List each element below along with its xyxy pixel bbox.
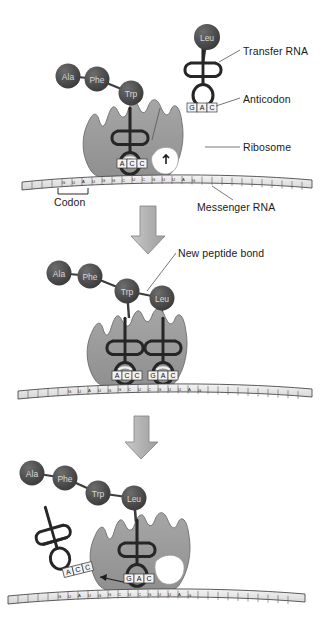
svg-text:G: G	[188, 593, 191, 598]
svg-text:G: G	[198, 388, 201, 393]
svg-text:A: A	[88, 388, 91, 393]
svg-text:C: C	[142, 177, 145, 182]
amino-acid-label: Phe	[82, 272, 97, 282]
svg-text:G: G	[108, 592, 111, 597]
svg-text:A: A	[78, 593, 81, 598]
svg-text:U: U	[98, 388, 101, 393]
amino-acid-label: Trp	[92, 489, 105, 499]
svg-text:G: G	[112, 178, 115, 183]
amino-acid-label: Leu	[200, 33, 214, 43]
amino-acids-panel2: Ala Phe Trp Leu	[47, 261, 175, 311]
svg-text:G: G	[118, 387, 121, 392]
svg-text:G: G	[148, 592, 151, 597]
amino-acid-label: Trp	[125, 89, 138, 99]
anticodon-letter: G	[126, 575, 131, 582]
arrow-2-to-3	[125, 416, 158, 459]
svg-text:G: G	[98, 593, 101, 598]
label-transfer-rna: Transfer RNA	[243, 45, 308, 57]
svg-text:G: G	[158, 387, 161, 392]
anticodon-leu-panel2: G A C	[148, 371, 178, 380]
anticodon-letter: A	[200, 104, 205, 111]
svg-text:U: U	[168, 592, 171, 597]
anticodon-letter: C	[146, 575, 151, 582]
amino-acid-label: Leu	[155, 294, 169, 304]
svg-text:U: U	[78, 389, 81, 394]
amino-acids-panel1: Ala Phe Trp Leu	[56, 24, 221, 106]
anticodon-letter: C	[170, 372, 175, 379]
svg-text:U: U	[138, 387, 141, 392]
anticodon-letter: C	[209, 104, 214, 111]
svg-text:U: U	[158, 592, 161, 597]
svg-text:G: G	[152, 177, 155, 182]
amino-acid-label: Leu	[127, 494, 141, 504]
svg-text:U: U	[168, 387, 171, 392]
codon-bracket	[58, 188, 88, 194]
svg-text:U: U	[178, 387, 181, 392]
anticodon-letter: C	[129, 160, 134, 167]
svg-text:U: U	[132, 177, 135, 182]
leader-line-new-peptide-bond	[147, 253, 176, 291]
svg-text:U: U	[162, 177, 165, 182]
svg-text:G: G	[62, 180, 65, 185]
svg-text:A: A	[182, 177, 185, 182]
svg-text:A: A	[82, 179, 85, 184]
mrna-panel-3: G U A U G G C U C G U U A G	[8, 589, 305, 604]
anticodon-letter: A	[161, 372, 166, 379]
amino-acid-label: Ala	[53, 269, 66, 279]
anticodon-leu-panel3: G A C	[124, 574, 154, 583]
svg-text:G: G	[102, 178, 105, 183]
anticodon-letter: G	[189, 104, 194, 111]
anticodon-trp-panel2: A C C	[112, 371, 142, 380]
svg-text:U: U	[68, 594, 71, 599]
mrna-panel-1: G U A U G G C U C G U U A G	[22, 175, 312, 190]
label-codon: Codon	[54, 196, 85, 208]
label-messenger-rna: Messenger RNA	[197, 201, 275, 213]
label-ribosome: Ribosome	[243, 141, 291, 153]
label-anticodon: Anticodon	[243, 93, 291, 105]
svg-text:A: A	[188, 387, 191, 392]
svg-text:U: U	[72, 180, 75, 185]
svg-text:C: C	[122, 178, 125, 183]
anticodon-letter: A	[115, 372, 120, 379]
amino-acid-label: Phe	[89, 75, 104, 85]
svg-text:G: G	[108, 388, 111, 393]
anticodon-letter: C	[134, 372, 139, 379]
a-site-pocket-panel3	[155, 555, 184, 584]
trna-released	[29, 503, 80, 574]
amino-acid-label: Phe	[57, 474, 72, 484]
label-new-peptide-bond: New peptide bond	[178, 247, 264, 259]
svg-text:C: C	[118, 592, 121, 597]
peptide-chain-panel3	[32, 473, 134, 498]
anticodon-trp-panel1: A C C	[117, 159, 147, 168]
svg-text:U: U	[88, 593, 91, 598]
amino-acid-label: Ala	[26, 469, 39, 479]
panel-3: Ala Phe Trp Leu A C C	[8, 461, 305, 605]
svg-text:U: U	[128, 592, 131, 597]
anticodon-letter: A	[120, 160, 125, 167]
arrow-1-to-2	[131, 206, 165, 254]
anticodon-letter: C	[139, 160, 144, 167]
anticodon-letter: A	[137, 575, 142, 582]
svg-text:G: G	[68, 389, 71, 394]
mrna-panel-2: G U A U G G C U C G U U A G	[18, 384, 312, 399]
anticodon-letter: G	[150, 372, 155, 379]
panel-2: Ala Phe Trp Leu A C C G A	[18, 253, 312, 399]
svg-text:G: G	[192, 178, 195, 183]
anticodon-leu-panel1: G A C	[187, 103, 217, 112]
svg-text:A: A	[178, 592, 181, 597]
trna-leu-free	[185, 40, 221, 106]
anticodon-released-panel3: A C C	[62, 562, 93, 578]
svg-text:C: C	[128, 387, 131, 392]
anticodon-letter: C	[124, 372, 129, 379]
amino-acid-label: Ala	[62, 72, 75, 82]
peptide-chain-panel2	[59, 273, 162, 298]
svg-text:C: C	[138, 592, 141, 597]
svg-text:U: U	[172, 177, 175, 182]
svg-text:C: C	[148, 387, 151, 392]
svg-text:U: U	[92, 179, 95, 184]
a-site-pocket-panel1	[152, 147, 179, 174]
svg-text:G: G	[58, 594, 61, 599]
amino-acid-label: Trp	[121, 287, 134, 297]
translation-diagram: Ala Phe Trp Leu A C C G	[0, 0, 326, 618]
